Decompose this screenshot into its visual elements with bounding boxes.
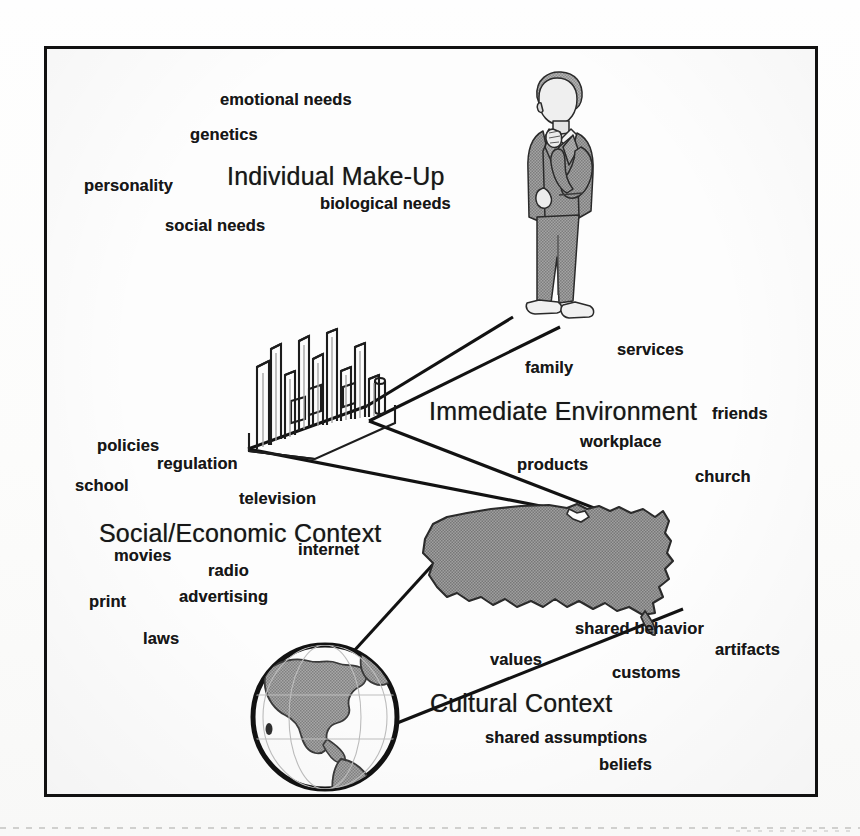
keyword-beliefs: beliefs	[599, 755, 652, 774]
scan-artifact-line	[0, 826, 860, 830]
usa-map-silhouette	[417, 495, 687, 637]
keyword-television: television	[239, 489, 316, 508]
keyword-genetics: genetics	[190, 125, 258, 144]
businessman-clipart	[497, 67, 617, 335]
scan-artifact-corner	[736, 800, 856, 834]
keyword-workplace: workplace	[580, 432, 662, 451]
keyword-school: school	[75, 476, 129, 495]
keyword-radio: radio	[208, 561, 249, 580]
keyword-friends: friends	[712, 404, 768, 423]
keyword-policies: policies	[97, 436, 159, 455]
level-heading-individual: Individual Make-Up	[227, 162, 445, 191]
globe-clipart	[243, 635, 407, 797]
keyword-internet: internet	[298, 540, 359, 559]
keyword-advertising: advertising	[179, 587, 268, 606]
keyword-church: church	[695, 467, 751, 486]
keyword-social-needs: social needs	[165, 216, 265, 235]
keyword-personality: personality	[84, 176, 173, 195]
city-skyline-clipart	[243, 327, 403, 459]
keyword-artifacts: artifacts	[715, 640, 780, 659]
keyword-products: products	[517, 455, 588, 474]
keyword-family: family	[525, 358, 573, 377]
level-heading-cultural: Cultural Context	[430, 689, 612, 718]
keyword-shared-assumptions: shared assumptions	[485, 728, 647, 747]
keyword-movies: movies	[114, 546, 171, 565]
keyword-values: values	[490, 650, 542, 669]
keyword-services: services	[617, 340, 684, 359]
keyword-shared-behavior: shared behavior	[575, 619, 704, 638]
level-heading-immediate: Immediate Environment	[429, 397, 697, 426]
diagram-frame: Individual Make-Upemotional needsgenetic…	[44, 46, 818, 797]
keyword-customs: customs	[612, 663, 681, 682]
keyword-emotional-needs: emotional needs	[220, 90, 352, 109]
keyword-print: print	[89, 592, 126, 611]
keyword-regulation: regulation	[157, 454, 238, 473]
keyword-laws: laws	[143, 629, 179, 648]
keyword-biological-needs: biological needs	[320, 194, 451, 213]
